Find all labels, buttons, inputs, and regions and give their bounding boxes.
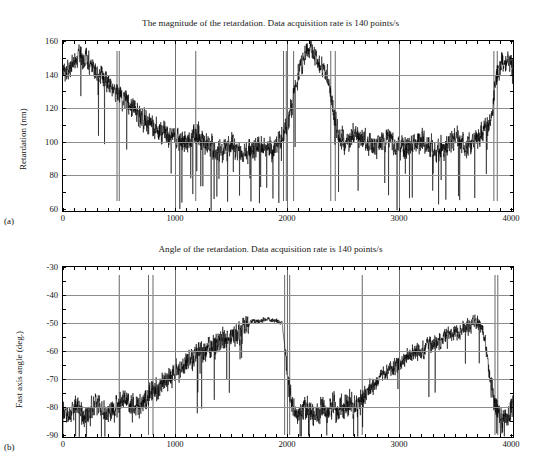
y-axis-tick-label: 160 <box>26 36 58 46</box>
axis-tick <box>388 208 389 211</box>
axis-tick <box>287 208 288 211</box>
axis-tick <box>410 434 411 437</box>
axis-tick <box>130 267 131 270</box>
axis-tick <box>510 337 513 338</box>
gridline-horizontal <box>63 295 513 296</box>
axis-tick <box>85 208 86 211</box>
axis-tick <box>332 208 333 211</box>
axis-tick <box>433 41 434 44</box>
axis-tick <box>489 434 490 437</box>
axis-tick <box>63 337 66 338</box>
x-axis-tick-label: 1000 <box>166 439 183 449</box>
axis-tick <box>500 434 501 437</box>
axis-tick <box>343 208 344 211</box>
axis-tick <box>444 208 445 211</box>
axis-tick <box>365 208 366 211</box>
axis-tick <box>130 434 131 437</box>
axis-tick <box>444 434 445 437</box>
axis-tick <box>388 41 389 44</box>
axis-tick <box>354 208 355 211</box>
axis-tick <box>298 267 299 270</box>
axis-tick <box>510 108 513 109</box>
axis-tick <box>253 208 254 211</box>
axis-tick <box>365 267 366 270</box>
axis-tick <box>164 41 165 44</box>
axis-tick <box>164 267 165 270</box>
gridline-horizontal <box>63 379 513 380</box>
axis-tick <box>477 267 478 270</box>
axis-tick <box>421 267 422 270</box>
axis-tick <box>141 267 142 270</box>
axis-tick <box>399 208 400 211</box>
gridline-horizontal <box>63 142 513 143</box>
axis-tick <box>63 142 66 143</box>
axis-tick <box>489 41 490 44</box>
axis-tick <box>164 208 165 211</box>
axis-tick <box>433 434 434 437</box>
axis-tick <box>365 434 366 437</box>
axis-tick <box>510 209 513 210</box>
axis-tick <box>455 434 456 437</box>
axis-tick <box>466 434 467 437</box>
x-axis-tick-label: 0 <box>61 213 65 223</box>
axis-tick <box>63 209 66 210</box>
axis-tick <box>175 41 176 44</box>
x-axis-tick-label: 4000 <box>502 439 519 449</box>
x-axis-tick-label: 0 <box>61 439 65 449</box>
x-axis-tick-label: 3000 <box>390 213 407 223</box>
axis-tick <box>141 208 142 211</box>
axis-tick <box>287 434 288 437</box>
y-axis-tick-label: 120 <box>26 103 58 113</box>
axis-tick <box>377 41 378 44</box>
axis-tick <box>119 41 120 44</box>
panel-b-plot-area <box>62 266 514 438</box>
axis-tick <box>510 159 513 160</box>
axis-tick <box>510 267 513 268</box>
data-line <box>63 41 513 211</box>
axis-tick <box>510 309 513 310</box>
axis-tick <box>510 281 513 282</box>
axis-tick <box>220 267 221 270</box>
axis-tick <box>287 41 288 44</box>
axis-tick <box>510 379 513 380</box>
axis-tick <box>209 267 210 270</box>
panel-a-title: The magnitude of the retardation. Data a… <box>0 18 541 28</box>
axis-tick <box>399 434 400 437</box>
axis-tick <box>209 434 210 437</box>
axis-tick <box>130 41 131 44</box>
axis-tick <box>119 434 120 437</box>
axis-tick <box>197 434 198 437</box>
axis-tick <box>421 41 422 44</box>
axis-tick <box>298 434 299 437</box>
y-axis-tick-label: -50 <box>26 318 58 328</box>
axis-tick <box>309 434 310 437</box>
gridline-horizontal <box>63 323 513 324</box>
axis-tick <box>97 267 98 270</box>
axis-tick <box>63 351 66 352</box>
axis-tick <box>63 379 66 380</box>
y-axis-tick-label: -90 <box>26 430 58 440</box>
axis-tick <box>97 41 98 44</box>
axis-tick <box>433 208 434 211</box>
axis-tick <box>321 434 322 437</box>
axis-tick <box>63 393 66 394</box>
gridline-vertical <box>399 267 400 437</box>
axis-tick <box>309 41 310 44</box>
axis-tick <box>197 267 198 270</box>
panel-a-letter: (a) <box>4 216 14 226</box>
axis-tick <box>85 41 86 44</box>
axis-tick <box>153 208 154 211</box>
panel-b-title: Angle of the retardation. Data acquisiti… <box>0 244 541 254</box>
axis-tick <box>500 267 501 270</box>
axis-tick <box>500 208 501 211</box>
data-line <box>63 315 513 437</box>
axis-tick <box>253 41 254 44</box>
axis-tick <box>220 41 221 44</box>
axis-tick <box>510 435 513 436</box>
axis-tick <box>231 208 232 211</box>
axis-tick <box>276 434 277 437</box>
axis-tick <box>85 434 86 437</box>
axis-tick <box>510 75 513 76</box>
gridline-horizontal <box>63 407 513 408</box>
axis-tick <box>63 295 66 296</box>
